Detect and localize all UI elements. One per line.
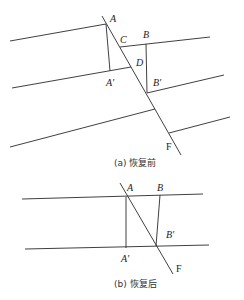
label-c: C <box>120 34 127 45</box>
stratum-top-b <box>22 194 203 199</box>
segment-b-bprime-b <box>156 195 160 246</box>
label-f: F <box>166 141 172 152</box>
fault-restoration-diagram: A C B D A' B' F (a) 恢复前 A B B' A' F (b) … <box>0 0 244 300</box>
label-b-b: B <box>157 182 163 193</box>
caption-b: (b) 恢复后 <box>114 278 157 289</box>
stratum-3-right <box>169 117 230 133</box>
label-b-prime-b: B' <box>166 229 175 240</box>
segment-a-aprime <box>106 24 110 71</box>
label-b-prime: B' <box>153 77 162 88</box>
label-a: A <box>109 13 117 24</box>
figure-b-after: A B B' A' F (b) 恢复后 <box>22 182 209 289</box>
stratum-bottom-b <box>25 245 209 249</box>
stratum-1-left <box>10 24 106 41</box>
label-d: D <box>135 57 144 68</box>
label-f-b: F <box>176 263 182 274</box>
caption-a: (a) 恢复前 <box>114 157 156 168</box>
segment-b-bprime <box>146 44 147 93</box>
label-b: B <box>143 29 149 40</box>
figure-a-before: A C B D A' B' F (a) 恢复前 <box>10 13 230 168</box>
label-a-b: A <box>126 182 134 193</box>
stratum-1-right <box>120 37 210 47</box>
label-a-prime: A' <box>105 77 115 88</box>
stratum-3-left <box>10 109 155 147</box>
label-a-prime-b: A' <box>120 253 130 264</box>
